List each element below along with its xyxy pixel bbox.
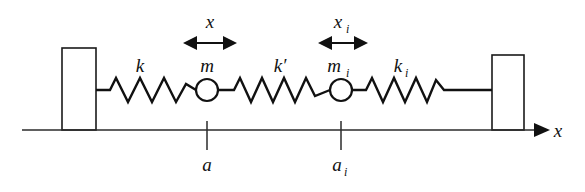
label-spring-k-i: k i (394, 55, 409, 80)
label-position-a-i-subscript: i (344, 165, 347, 179)
label-spring-k: k (136, 55, 145, 76)
label-spring-k-i-base: k (394, 55, 403, 76)
displacement-arrow-x (183, 36, 237, 50)
label-mass-m: m (200, 55, 214, 76)
arrow-right-head-icon (223, 36, 237, 50)
right-fixed-wall (492, 55, 524, 130)
label-mass-m-i: m i (327, 55, 349, 80)
label-position-a-i: a i (332, 154, 347, 179)
spring-k-prime (218, 78, 330, 102)
label-mass-m-i-base: m (327, 55, 341, 76)
left-fixed-wall (62, 48, 96, 130)
label-displacement-x-i-base: x (333, 11, 343, 32)
label-position-a-i-base: a (332, 154, 342, 175)
label-mass-m-i-subscript: i (346, 66, 349, 80)
mass-m-i (330, 79, 352, 101)
mass-spring-diagram: k m k′ m i k i x x i a a i x (0, 0, 585, 192)
arrow-right-head-icon (354, 36, 368, 50)
arrow-left-head-icon (183, 36, 197, 50)
diagram-canvas: k m k′ m i k i x x i a a i x (0, 0, 585, 192)
spring-k-i (352, 78, 492, 102)
arrow-left-head-icon (318, 36, 332, 50)
label-displacement-x-i-subscript: i (346, 22, 349, 36)
label-spring-k-i-subscript: i (405, 66, 408, 80)
label-displacement-x: x (205, 11, 215, 32)
mass-m (196, 79, 218, 101)
displacement-arrow-x-i (318, 36, 368, 50)
label-displacement-x-i: x i (333, 11, 350, 36)
label-axis-x: x (553, 120, 563, 141)
label-spring-k-prime: k′ (274, 55, 287, 76)
spring-k (96, 78, 196, 102)
x-axis-arrow-icon (534, 123, 550, 137)
label-position-a: a (202, 154, 212, 175)
